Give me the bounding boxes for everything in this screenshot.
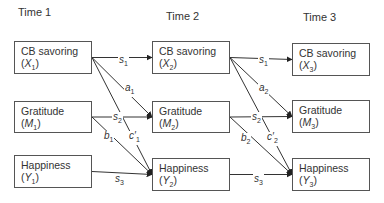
time-label: Time 2 — [166, 10, 199, 22]
node-variable: (X2) — [159, 57, 229, 74]
node-variable: (M3) — [299, 116, 369, 133]
node-m1: Gratitude(M1) — [14, 101, 92, 133]
node-y3: Happiness(Y3) — [292, 158, 370, 191]
node-label: CB savoring — [21, 45, 91, 57]
node-m2: Gratitude(M2) — [152, 101, 230, 133]
path-coefficient-label: a1 — [124, 83, 135, 97]
path-coefficient-label: s3 — [114, 174, 125, 188]
node-label: Gratitude — [159, 105, 229, 117]
node-variable: (Y1) — [21, 171, 91, 188]
node-y2: Happiness(Y2) — [152, 158, 230, 191]
path-coefficient-label: s2 — [112, 112, 123, 126]
node-x1: CB savoring(X1) — [14, 41, 92, 74]
time-label: Time 3 — [303, 11, 336, 23]
node-x3: CB savoring(X3) — [292, 43, 370, 76]
node-variable: (Y3) — [299, 174, 369, 191]
node-x2: CB savoring(X2) — [152, 41, 230, 74]
node-variable: (M1) — [21, 117, 91, 134]
path-coefficient-label: s2 — [251, 112, 262, 126]
path-coefficient-label: c′2 — [266, 132, 279, 146]
node-variable: (X1) — [21, 57, 91, 74]
node-label: Happiness — [21, 159, 91, 171]
node-variable: (M2) — [159, 117, 229, 134]
node-m3: Gratitude(M3) — [292, 100, 370, 133]
path-coefficient-label: s3 — [253, 174, 264, 188]
node-variable: (Y2) — [159, 174, 229, 191]
node-label: Happiness — [159, 162, 229, 174]
path-coefficient-label: c′1 — [128, 131, 141, 145]
path-coefficient-label: a2 — [258, 83, 269, 97]
node-label: Gratitude — [21, 105, 91, 117]
node-y1: Happiness(Y1) — [14, 155, 92, 188]
node-label: Gratitude — [299, 104, 369, 116]
node-label: CB savoring — [299, 47, 369, 59]
path-coefficient-label: s1 — [258, 55, 269, 69]
path-coefficient-label: b2 — [240, 133, 251, 147]
path-coefficient-label: s1 — [118, 55, 129, 69]
node-label: CB savoring — [159, 45, 229, 57]
node-label: Happiness — [299, 162, 369, 174]
time-label: Time 1 — [18, 6, 51, 18]
path-coefficient-label: b1 — [103, 131, 114, 145]
node-variable: (X3) — [299, 59, 369, 76]
